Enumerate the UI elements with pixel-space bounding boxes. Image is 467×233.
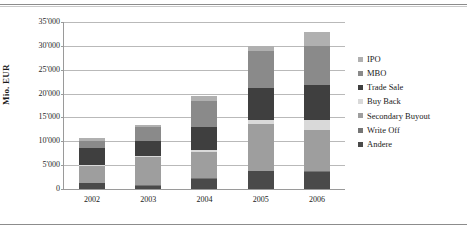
legend-swatch-icon — [358, 113, 363, 118]
x-axis-tick-label: 2006 — [309, 195, 325, 204]
bar-segment[interactable] — [135, 141, 161, 155]
x-axis-tick-label: 2003 — [140, 195, 156, 204]
bar-segment[interactable] — [248, 88, 274, 120]
legend-swatch-icon — [358, 128, 363, 133]
bar-segment[interactable] — [79, 166, 105, 183]
bar-segment[interactable] — [248, 51, 274, 88]
legend-item[interactable]: IPO — [358, 52, 464, 66]
bar-segment[interactable] — [135, 186, 161, 189]
legend-item-label: Buy Back — [367, 97, 401, 106]
legend-item-label: Trade Sale — [367, 83, 403, 92]
y-axis-tick-mark — [61, 189, 64, 190]
legend-item[interactable]: Secondary Buyout — [358, 109, 464, 123]
legend-item-label: Write Off — [367, 126, 400, 135]
bar-segment[interactable] — [304, 32, 330, 46]
legend-swatch-icon — [358, 142, 363, 147]
y-axis-tick-label: 35'000 — [39, 18, 60, 26]
y-axis-title: Mio. EUR — [1, 64, 11, 105]
bar-group: 2006 — [289, 22, 345, 189]
y-axis-tick-label: 10'000 — [39, 137, 60, 145]
legend-item[interactable]: Buy Back — [358, 95, 464, 109]
stacked-bar[interactable] — [135, 125, 161, 189]
legend-item-label: IPO — [367, 55, 381, 64]
bar-segment[interactable] — [304, 85, 330, 120]
bar-segment[interactable] — [248, 124, 274, 171]
bar-segment[interactable] — [304, 120, 330, 130]
bar-segment[interactable] — [135, 127, 161, 141]
legend-item[interactable]: Trade Sale — [358, 80, 464, 94]
bar-segment[interactable] — [191, 179, 217, 189]
y-axis-tick-label: 15'000 — [39, 113, 60, 121]
x-axis-tick-label: 2002 — [84, 195, 100, 204]
page-rule-top — [0, 4, 467, 5]
x-axis-tick-label: 2005 — [253, 195, 269, 204]
y-axis-tick-label: 20'000 — [39, 90, 60, 98]
bar-group: 2005 — [233, 22, 289, 189]
legend-swatch-icon — [358, 99, 363, 104]
y-axis-tick-label: 5'000 — [43, 161, 60, 169]
page-rule-top-secondary — [0, 6, 467, 7]
y-axis-tick-label: 25'000 — [39, 66, 60, 74]
legend-item-label: Andere — [367, 140, 392, 149]
chart-page: Mio. EUR 05'00010'00015'00020'00025'0003… — [0, 0, 467, 233]
bar-segment[interactable] — [191, 127, 217, 149]
stacked-bar[interactable] — [191, 96, 217, 189]
plot-area: 05'00010'00015'00020'00025'00030'00035'0… — [63, 22, 345, 190]
y-axis-tick-label: 30'000 — [39, 42, 60, 50]
legend-item[interactable]: Andere — [358, 137, 464, 151]
bar-segment[interactable] — [304, 46, 330, 85]
bar-group: 2003 — [120, 22, 176, 189]
page-rule-bottom — [0, 224, 467, 225]
legend-item-label: MBO — [367, 69, 386, 78]
legend-swatch-icon — [358, 57, 363, 62]
bar-group: 2004 — [176, 22, 232, 189]
bar-segment[interactable] — [79, 141, 105, 148]
stacked-bar[interactable] — [304, 32, 330, 189]
bar-segment[interactable] — [79, 183, 105, 189]
bar-segment[interactable] — [304, 130, 330, 171]
bar-group: 2002 — [64, 22, 120, 189]
bar-segment[interactable] — [304, 172, 330, 189]
bar-segment[interactable] — [79, 148, 105, 166]
legend-item[interactable]: Write Off — [358, 123, 464, 137]
bar-segment[interactable] — [248, 171, 274, 189]
legend-swatch-icon — [358, 71, 363, 76]
legend-swatch-icon — [358, 85, 363, 90]
y-axis-tick-label: 0 — [56, 185, 60, 193]
stacked-bar[interactable] — [79, 138, 105, 189]
bar-segment[interactable] — [191, 101, 217, 127]
stacked-bar[interactable] — [248, 46, 274, 189]
x-axis-tick-label: 2004 — [196, 195, 212, 204]
legend-item-label: Secondary Buyout — [367, 112, 430, 121]
chart-legend: IPOMBOTrade SaleBuy BackSecondary Buyout… — [358, 52, 464, 151]
bar-segment[interactable] — [191, 152, 217, 178]
stacked-bar-chart: Mio. EUR 05'00010'00015'00020'00025'0003… — [0, 10, 467, 220]
legend-item[interactable]: MBO — [358, 66, 464, 80]
bar-segment[interactable] — [135, 157, 161, 186]
